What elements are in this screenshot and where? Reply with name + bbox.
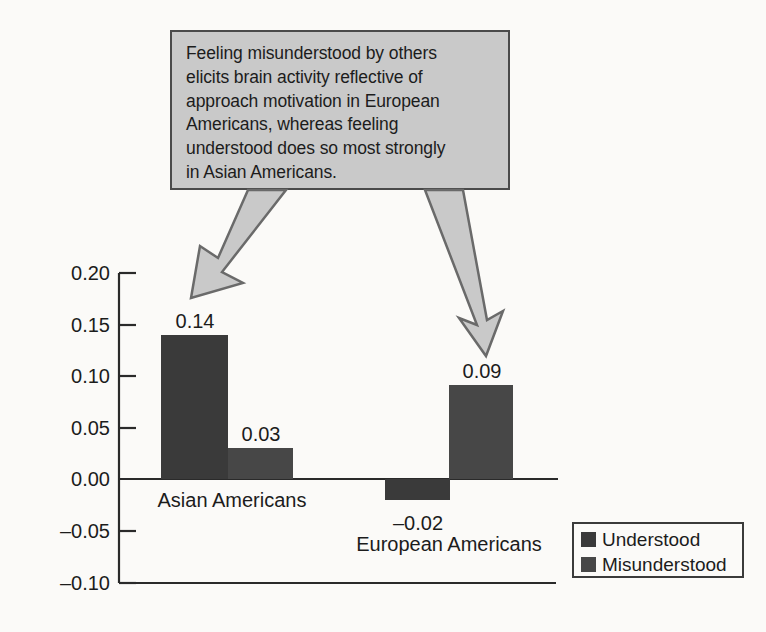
y-tick-label-4: 0.00 xyxy=(28,468,110,491)
y-tick-label-2: 0.10 xyxy=(28,365,110,388)
y-tick-label-0: 0.20 xyxy=(28,262,110,285)
value-label-european-understood: –0.02 xyxy=(393,512,443,535)
value-label-asian-misunderstood: 0.03 xyxy=(242,423,281,446)
bar-european-understood xyxy=(385,479,450,500)
y-tick-label-3: 0.05 xyxy=(28,417,110,440)
figure-container: Feeling misunderstood by others elicits … xyxy=(0,0,766,632)
value-label-european-misunderstood: 0.09 xyxy=(463,360,502,383)
y-axis-ticks xyxy=(119,273,136,583)
legend-label-misunderstood: Misunderstood xyxy=(602,555,727,574)
legend-swatch-misunderstood-icon xyxy=(581,557,596,572)
legend-label-understood: Understood xyxy=(602,530,700,549)
bar-asian-understood xyxy=(161,335,228,479)
y-tick-label-1: 0.15 xyxy=(28,314,110,337)
category-label-european-americans: European Americans xyxy=(356,533,542,556)
bar-european-misunderstood xyxy=(449,385,513,479)
callout-arrow-left xyxy=(191,190,286,298)
y-tick-label-5: –0.05 xyxy=(28,520,110,543)
y-tick-label-6: –0.10 xyxy=(28,572,110,595)
value-label-asian-understood: 0.14 xyxy=(176,310,215,333)
legend-item-understood: Understood xyxy=(581,527,736,552)
callout-arrow-right xyxy=(425,190,503,356)
legend-item-misunderstood: Misunderstood xyxy=(581,552,736,577)
bar-asian-misunderstood xyxy=(228,448,293,479)
legend-swatch-understood-icon xyxy=(581,532,596,547)
category-label-asian-americans: Asian Americans xyxy=(158,489,307,512)
chart-legend: Understood Misunderstood xyxy=(572,522,744,578)
